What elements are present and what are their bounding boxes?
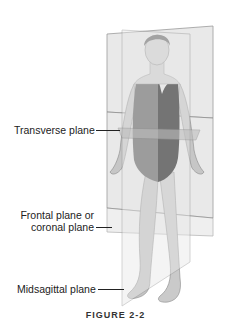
transverse-leader-line	[96, 130, 120, 131]
human-figure-illustration	[0, 0, 231, 322]
frontal-plane-label-line1: Frontal plane or	[20, 209, 94, 221]
frontal-leader-line	[96, 227, 112, 228]
midsagittal-plane	[122, 30, 190, 306]
anatomical-planes-diagram: Transverse plane Frontal plane or corona…	[0, 0, 231, 322]
midsagittal-leader-line	[98, 289, 124, 290]
transverse-plane	[118, 128, 200, 140]
midsagittal-plane-label: Midsagittal plane	[17, 283, 96, 295]
transverse-plane-label: Transverse plane	[14, 124, 95, 136]
frontal-plane-label-line2: coronal plane	[20, 221, 94, 233]
figure-caption: FIGURE 2-2	[0, 310, 231, 320]
